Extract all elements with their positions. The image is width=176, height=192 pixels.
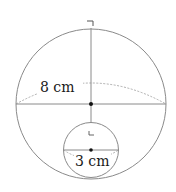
top-corner-marker bbox=[87, 21, 93, 26]
sphere-diagram: 8 cm 3 cm bbox=[0, 0, 176, 192]
small-sphere-radius-label: 3 cm bbox=[75, 153, 109, 169]
small-sphere-center-dot bbox=[89, 148, 93, 152]
large-sphere-radius-label: 8 cm bbox=[40, 79, 74, 95]
inner-right-angle-marker bbox=[89, 131, 94, 135]
large-sphere-center-dot bbox=[89, 102, 93, 106]
